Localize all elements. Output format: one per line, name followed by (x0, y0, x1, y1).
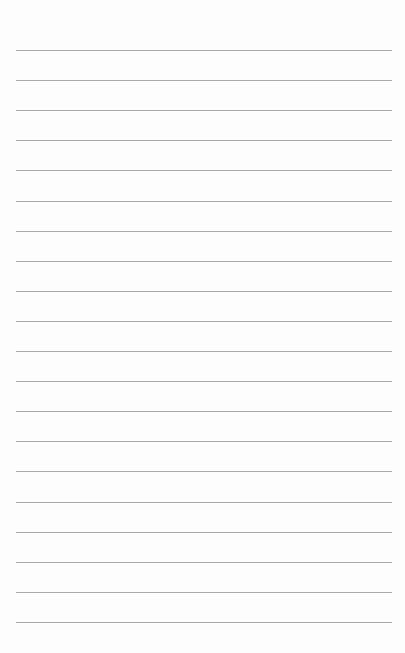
lined-paper-page (0, 0, 405, 653)
ruled-line (16, 592, 392, 593)
ruled-line (16, 321, 392, 322)
ruled-line (16, 502, 392, 503)
ruled-line (16, 381, 392, 382)
ruled-line (16, 411, 392, 412)
ruled-line (16, 80, 392, 81)
ruled-line (16, 201, 392, 202)
ruled-line (16, 140, 392, 141)
ruled-line (16, 351, 392, 352)
ruled-line (16, 441, 392, 442)
ruled-line (16, 532, 392, 533)
ruled-line (16, 622, 392, 623)
ruled-line (16, 231, 392, 232)
ruled-line (16, 562, 392, 563)
ruled-line (16, 170, 392, 171)
ruled-line (16, 261, 392, 262)
ruled-line (16, 291, 392, 292)
ruled-line (16, 471, 392, 472)
ruled-line (16, 50, 392, 51)
ruled-line (16, 110, 392, 111)
